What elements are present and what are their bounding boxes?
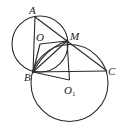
label-o1-subscript: 1 xyxy=(72,90,76,98)
geometry-figure: A O M B C O 1 xyxy=(0,0,123,136)
point-b-dot xyxy=(32,71,34,73)
segment-bo1 xyxy=(33,72,70,80)
label-m: M xyxy=(69,30,80,42)
label-b: B xyxy=(24,71,31,83)
label-o: O xyxy=(36,31,44,43)
label-o1: O xyxy=(64,84,72,96)
segment-bm xyxy=(33,41,67,72)
circle-o1 xyxy=(31,45,108,122)
diagram-canvas: A O M B C O 1 xyxy=(0,0,123,136)
segment-ac xyxy=(35,17,107,71)
label-a: A xyxy=(28,4,36,16)
point-m-dot xyxy=(66,40,69,43)
label-c: C xyxy=(108,65,116,77)
